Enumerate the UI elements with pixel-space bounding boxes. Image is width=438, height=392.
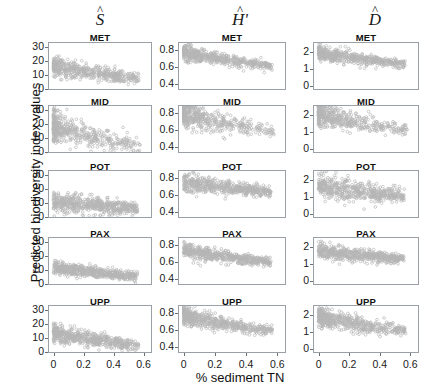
panel-title-H-UPP: UPP [178,296,286,307]
y-tick-D-UPP-2: 2 [283,308,309,320]
x-tickmark [184,353,185,356]
y-tickmark [310,69,313,70]
y-tick-D-MID-2: 2 [283,108,309,120]
x-tickmark [349,353,350,356]
scatter-panel-S-MET [48,42,152,90]
scatter-panel-H-MID [178,105,286,153]
scatter-panel-D-PAX [313,237,419,285]
y-tickmark [45,310,48,311]
x-tickmark [380,353,381,356]
y-tickmark [45,89,48,90]
y-tickmark [175,67,178,68]
y-tickmark [310,180,313,181]
y-tickmark [45,138,48,139]
y-tick-D-POT-1: 1 [283,190,309,202]
panel-title-S-MID: MID [48,96,152,107]
y-tickmark [45,203,48,204]
panel-title-H-PAX: PAX [178,228,286,239]
y-tick-S-MID-3: 30 [18,103,44,115]
y-tick-H-PAX-2: 0.8 [148,238,174,250]
y-tick-H-MID-2: 0.8 [148,106,174,118]
x-tick-H-2: 0.4 [231,358,261,370]
y-tick-S-UPP-2: 20 [18,317,44,329]
panel-title-D-MET: MET [313,32,419,43]
x-tick-H-3: 0.6 [262,358,292,370]
x-tick-S-1: 0.2 [69,358,99,370]
y-tick-H-UPP-0: 0.4 [148,340,174,352]
scatter-panel-H-POT [178,170,286,218]
y-tick-H-POT-1: 0.6 [148,188,174,200]
y-tick-D-PAX-2: 2 [283,240,309,252]
y-tickmark [45,124,48,125]
y-tick-S-UPP-1: 10 [18,331,44,343]
y-tick-H-MID-1: 0.6 [148,123,174,135]
y-tick-D-UPP-0: 0 [283,342,309,354]
panel-title-H-POT: POT [178,161,286,172]
column-header-D: ^D [335,8,415,30]
y-tick-S-POT-1: 10 [18,196,44,208]
y-tick-S-PAX-0: 0 [18,277,44,289]
y-tick-H-MET-1: 0.6 [148,60,174,72]
x-tickmark [54,353,55,356]
y-tick-H-PAX-1: 0.6 [148,255,174,267]
y-tick-S-MET-0: 0 [18,82,44,94]
x-tickmark [410,353,411,356]
hat-accent-D: ^ [372,7,378,13]
x-tick-S-0: 0 [39,358,69,370]
y-tick-S-PAX-1: 10 [18,263,44,275]
y-tickmark [310,86,313,87]
y-tick-S-POT-0: 0 [18,210,44,222]
y-tick-D-POT-2: 2 [283,173,309,185]
y-tick-H-UPP-1: 0.6 [148,323,174,335]
y-tick-D-POT-0: 0 [283,207,309,219]
y-tickmark [310,197,313,198]
y-tick-H-POT-2: 0.8 [148,171,174,183]
y-tickmark [310,247,313,248]
scatter-panel-D-POT [313,170,419,218]
scatter-panel-S-POT [48,170,152,218]
x-tick-H-0: 0 [169,358,199,370]
y-tickmark [310,115,313,116]
panel-title-D-MID: MID [313,96,419,107]
hat-accent-H: ^ [237,7,243,13]
y-tickmark [310,214,313,215]
x-axis-label: % sediment TN [150,370,330,385]
y-tickmark [175,262,178,263]
y-tickmark [45,284,48,285]
y-tick-D-MID-0: 0 [283,142,309,154]
scatter-panel-S-UPP [48,305,152,353]
y-tick-S-POT-3: 30 [18,168,44,180]
y-tickmark [310,332,313,333]
y-tickmark [175,130,178,131]
scatter-panel-S-MID [48,105,152,153]
y-tickmark [175,50,178,51]
hat-accent-S: ^ [97,7,103,13]
x-tick-D-2: 0.4 [365,358,395,370]
panel-title-D-POT: POT [313,161,419,172]
panel-title-S-UPP: UPP [48,296,152,307]
column-header-S: ^S [60,8,140,30]
y-tick-S-UPP-3: 30 [18,303,44,315]
y-tickmark [175,279,178,280]
y-tick-H-POT-0: 0.4 [148,205,174,217]
x-tick-D-1: 0.2 [334,358,364,370]
y-tickmark [175,245,178,246]
panel-title-D-UPP: UPP [313,296,419,307]
x-tick-D-0: 0 [304,358,334,370]
y-tickmark [310,149,313,150]
y-tickmark [310,281,313,282]
y-tickmark [45,270,48,271]
y-tick-H-PAX-0: 0.4 [148,272,174,284]
y-tickmark [45,324,48,325]
y-tick-S-MET-2: 20 [18,54,44,66]
y-tickmark [45,47,48,48]
x-tickmark [215,353,216,356]
y-tickmark [45,110,48,111]
y-tickmark [310,315,313,316]
y-tick-D-MET-0: 0 [283,79,309,91]
y-tickmark [175,113,178,114]
scatter-panel-D-UPP [313,305,419,353]
figure-panel-grid: ^S ^H' ^D Predicted biodiversity index v… [0,0,438,392]
x-tickmark [144,353,145,356]
column-prime-H: ' [244,10,248,29]
